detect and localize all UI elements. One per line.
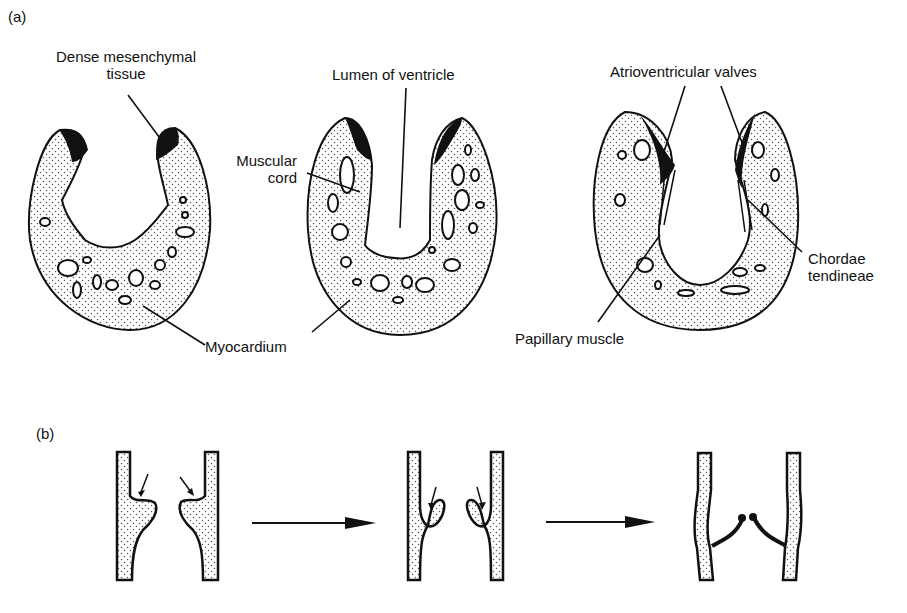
process-arrow-2 — [546, 516, 655, 528]
valve-stage-2 — [408, 452, 503, 580]
panel-label-a: (a) — [8, 8, 26, 25]
label-chordae-tendineae: Chordae tendineae — [808, 250, 874, 284]
label-myocardium: Myocardium — [205, 338, 287, 355]
process-arrow-1 — [252, 517, 376, 529]
panel-label-b: (b) — [36, 425, 54, 442]
label-line: cord — [215, 169, 297, 186]
label-line: Chordae — [808, 250, 874, 267]
heart-stage-1 — [29, 128, 210, 330]
label-line: tissue — [36, 65, 216, 82]
label-muscular-cord: Muscular cord — [215, 152, 297, 186]
label-lumen: Lumen of ventricle — [332, 66, 455, 83]
heart-stage-2 — [308, 118, 497, 335]
label-av-valves: Atrioventricular valves — [610, 63, 757, 80]
valve-stage-1 — [117, 452, 218, 580]
label-papillary-muscle: Papillary muscle — [515, 330, 624, 347]
label-line: Dense mesenchymal — [36, 48, 216, 65]
label-line: Muscular — [215, 152, 297, 169]
diagram-artwork — [0, 0, 907, 613]
label-line: tendineae — [808, 267, 874, 284]
valve-stage-3 — [695, 453, 802, 580]
heart-stage-3 — [594, 112, 798, 330]
label-dense-mesenchymal: Dense mesenchymal tissue — [36, 48, 216, 82]
